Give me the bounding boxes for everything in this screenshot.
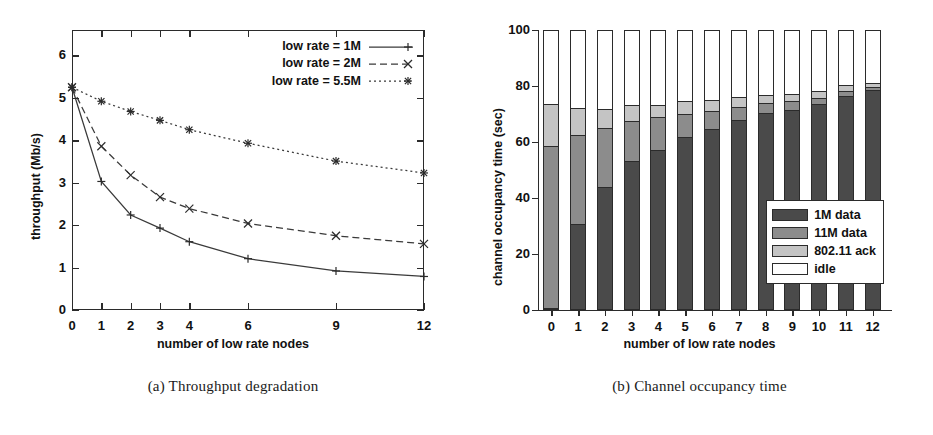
chart-a-x-tick-top [189, 30, 190, 37]
chart-b-y-tick-label: 80 [502, 79, 530, 92]
chart-a-x-tick [336, 303, 337, 310]
chart-b-y-tick-label: 40 [502, 191, 530, 204]
chart-a-y-tick-label: 2 [50, 218, 66, 231]
chart-b-y-tick [532, 198, 539, 199]
chart-b-x-tick [873, 310, 874, 316]
chart-a-y-tick-right [417, 310, 424, 311]
chart-a-y-tick [72, 268, 79, 269]
chart-b-bar-segment [651, 151, 665, 309]
chart-b-bar-segment [544, 147, 558, 309]
panel-b-caption: (b) Channel occupancy time [466, 378, 933, 395]
chart-a-legend-key [368, 58, 414, 70]
chart-b-legend-key [772, 227, 808, 239]
chart-a-legend-item: low rate = 2M [272, 55, 414, 72]
chart-b-legend-label: idle [814, 260, 836, 278]
chart-a-series-2 [68, 83, 428, 177]
chart-b-x-tick-label: 11 [832, 320, 860, 333]
chart-b-legend-label: 1M data [814, 206, 861, 224]
chart-b-x-tick [846, 310, 847, 316]
chart-a-y-axis-title: throughput (Mb/s) [30, 133, 43, 240]
chart-b-x-tick [766, 310, 767, 316]
chart-a-x-tick-top [160, 30, 161, 37]
chart-b-x-tick-label: 4 [644, 320, 672, 333]
chart-a-y-tick [72, 55, 79, 56]
chart-b-x-tick-label: 12 [859, 320, 887, 333]
chart-b-x-tick-label: 0 [537, 320, 565, 333]
panel-a-caption: (a) Throughput degradation [0, 378, 466, 395]
chart-b-bar-segment [625, 162, 639, 309]
chart-b-bar-segment [625, 122, 639, 162]
chart-a-x-tick [131, 303, 132, 310]
chart-b-bar-segment [785, 31, 799, 95]
chart-a-legend: low rate = 1Mlow rate = 2Mlow rate = 5.5… [268, 36, 418, 92]
chart-b-bar-segment [598, 129, 612, 188]
chart-b-bar [570, 30, 586, 310]
chart-b-x-axis-title: number of low rate nodes [466, 338, 933, 351]
chart-b-x-tick [685, 310, 686, 316]
chart-a-x-tick-label: 0 [58, 319, 86, 332]
chart-a-y-tick-right [417, 225, 424, 226]
chart-a-y-tick-label: 0 [50, 303, 66, 316]
chart-a-y-tick-label: 1 [50, 261, 66, 274]
chart-b-bar-segment [571, 31, 585, 109]
chart-a-series-0 [68, 83, 428, 280]
chart-a-y-tick-right [417, 140, 424, 141]
chart-b-x-tick [819, 310, 820, 316]
chart-b-bar [624, 30, 640, 310]
chart-a-legend-label: low rate = 5.5M [272, 73, 361, 90]
chart-b-x-tick-label: 1 [564, 320, 592, 333]
chart-b-x-tick [632, 310, 633, 316]
chart-a-legend-item: low rate = 5.5M [272, 73, 414, 90]
chart-b-bar-segment [598, 110, 612, 129]
chart-b-y-tick [532, 142, 539, 143]
chart-a-y-tick [72, 183, 79, 184]
chart-a-y-tick-right [417, 98, 424, 99]
chart-b-bar-segment [571, 225, 585, 309]
chart-a-legend-key [368, 75, 414, 87]
chart-b-bar-segment [678, 138, 692, 309]
panel-channel-occupancy-time: channel occupancy time (sec) 1M data11M … [466, 0, 933, 435]
chart-a-x-tick-top [131, 30, 132, 37]
chart-b-x-tick [792, 310, 793, 316]
chart-b-bar-segment [678, 102, 692, 115]
chart-b-bar-segment [678, 31, 692, 102]
chart-b-x-tick-label: 3 [618, 320, 646, 333]
chart-b-bar-segment [651, 118, 665, 151]
chart-a-x-tick-label: 2 [117, 319, 145, 332]
chart-b-x-axis-line [538, 310, 892, 311]
chart-b-bar [704, 30, 720, 310]
chart-b-x-tick-label: 5 [671, 320, 699, 333]
chart-a-legend-label: low rate = 1M [282, 38, 361, 55]
chart-b-legend-item: idle [772, 260, 876, 278]
chart-a-x-tick-label: 12 [410, 319, 438, 332]
chart-b-y-tick-label: 100 [502, 23, 530, 36]
chart-b-x-tick [605, 310, 606, 316]
chart-b-bar [677, 30, 693, 310]
chart-b-bar-segment [571, 136, 585, 225]
figure-root: throughput (Mb/s) low rate = 1Mlow rate … [0, 0, 933, 435]
chart-a-y-tick-right [417, 268, 424, 269]
chart-b-y-tick [532, 254, 539, 255]
chart-b-bar-segment [544, 31, 558, 105]
chart-b-bar-segment [732, 108, 746, 121]
chart-b-bar-segment [705, 31, 719, 101]
chart-b-bar-segment [759, 96, 773, 105]
chart-a-y-tick-label: 3 [50, 176, 66, 189]
chart-b-bar-segment [544, 105, 558, 148]
chart-a-y-tick-label: 6 [50, 48, 66, 61]
chart-a-y-tick-right [417, 183, 424, 184]
chart-b-bar-segment [732, 98, 746, 108]
chart-a-x-tick-top [72, 30, 73, 37]
chart-b-legend-key [772, 263, 808, 275]
chart-b-bar-segment [839, 31, 853, 86]
chart-b-bar-segment [625, 106, 639, 122]
chart-a-x-tick-top [101, 30, 102, 37]
chart-b-legend-label: 11M data [814, 224, 867, 242]
chart-a-legend-item: low rate = 1M [272, 38, 414, 55]
chart-b-bar-segment [785, 102, 799, 110]
chart-b-bar-segment [759, 104, 773, 114]
chart-a-x-tick [248, 303, 249, 310]
chart-b-x-tick-label: 8 [752, 320, 780, 333]
chart-b-bar [731, 30, 747, 310]
chart-b-x-tick [658, 310, 659, 316]
